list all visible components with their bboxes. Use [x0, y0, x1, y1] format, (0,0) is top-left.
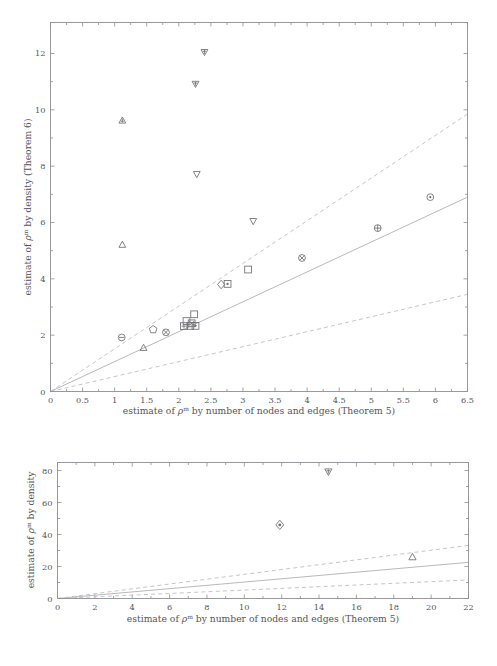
bottom-y-axis-label: estimate of ρm by density: [25, 471, 36, 588]
bottom-axis-ticks: [58, 463, 469, 599]
y-tick-label: 6: [40, 217, 45, 227]
top-x-axis-label: estimate of ρm by number of nodes and ed…: [123, 405, 395, 416]
x-tick-label: 1.5: [140, 395, 153, 405]
figure-svg: 00.511.522.533.544.555.566.5 024681012 e…: [0, 0, 497, 666]
y-tick-label: 10: [35, 105, 45, 115]
line-identity-reference: [51, 197, 468, 391]
bottom-y-tick-labels: 020406080: [42, 466, 52, 604]
x-tick-label: 12: [276, 602, 286, 612]
marker-square: [245, 266, 252, 273]
x-tick-label: 2: [92, 602, 97, 612]
bottom-reference-lines: [58, 545, 469, 598]
x-tick-label: 20: [426, 602, 436, 612]
line-upper-bound: [51, 114, 468, 391]
x-tick-label: 3.5: [269, 395, 282, 405]
y-tick-label: 20: [42, 562, 52, 572]
marker-triangle-down: [193, 171, 200, 177]
marker-circle-x: [163, 329, 170, 336]
x-tick-label: 14: [314, 602, 324, 612]
marker-triangle-up: [119, 241, 126, 247]
x-tick-label: 6: [167, 602, 172, 612]
x-tick-label: 4: [305, 395, 310, 405]
x-tick-label: 4: [130, 602, 135, 612]
y-tick-label: 2: [40, 330, 45, 340]
line-lower-bound: [58, 580, 469, 599]
x-tick-label: 22: [463, 602, 473, 612]
top-axis-ticks: [51, 23, 468, 392]
marker-triangle-up: [409, 553, 416, 560]
marker-diamond-dot: [276, 520, 284, 529]
bottom-x-axis-label: estimate of ρm by number of nodes and ed…: [127, 613, 399, 624]
marker-triangle-down: [250, 219, 257, 225]
top-y-tick-labels: 024681012: [35, 48, 45, 396]
marker-circle-minus: [118, 334, 125, 341]
x-tick-label: 6.5: [461, 395, 474, 405]
bottom-panel: 0246810121416182022 020406080 estimate o…: [25, 463, 474, 625]
marker-pentagon: [149, 326, 157, 333]
marker-diamond: [218, 280, 225, 289]
x-tick-label: 3: [240, 395, 245, 405]
figure-container: 00.511.522.533.544.555.566.5 024681012 e…: [0, 0, 497, 666]
marker-square: [191, 311, 198, 318]
marker-circle-x: [299, 255, 306, 262]
x-tick-label: 8: [204, 602, 209, 612]
x-tick-label: 5.5: [397, 395, 410, 405]
line-upper-bound: [58, 545, 469, 598]
marker-square: [183, 318, 190, 325]
y-tick-label: 40: [42, 530, 52, 540]
y-tick-label: 4: [40, 274, 45, 284]
x-tick-label: 2.5: [204, 395, 217, 405]
marker-square-dot: [224, 280, 231, 287]
line-identity-reference: [58, 562, 469, 598]
y-tick-label: 12: [35, 48, 45, 58]
x-tick-label: 16: [351, 602, 361, 612]
x-tick-label: 5: [369, 395, 374, 405]
top-scatter-points: [118, 50, 433, 351]
marker-triangle-down-filled: [201, 50, 208, 56]
x-tick-label: 18: [389, 602, 399, 612]
x-tick-label: 0.5: [76, 395, 89, 405]
marker-circle-plus: [374, 225, 381, 232]
y-tick-label: 80: [42, 466, 52, 476]
marker-triangle-up-filled: [119, 117, 126, 123]
x-tick-label: 6: [433, 395, 438, 405]
marker-triangle-down-filled: [192, 81, 199, 87]
top-panel: 00.511.522.533.544.555.566.5 024681012 e…: [22, 23, 474, 417]
line-lower-bound: [51, 294, 468, 391]
x-tick-label: 2: [176, 395, 181, 405]
top-reference-lines: [51, 114, 468, 391]
y-tick-label: 60: [42, 498, 52, 508]
x-tick-label: 0: [48, 395, 53, 405]
bottom-plot-frame: [58, 463, 469, 599]
bottom-x-tick-labels: 0246810121416182022: [55, 602, 474, 612]
top-plot-frame: [51, 23, 468, 392]
x-tick-label: 0: [55, 602, 60, 612]
y-tick-label: 8: [40, 161, 45, 171]
x-tick-label: 10: [239, 602, 249, 612]
top-x-tick-labels: 00.511.522.533.544.555.566.5: [48, 395, 474, 405]
x-tick-label: 4.5: [333, 395, 346, 405]
top-y-axis-label: estimate of ρm by density (Theorem 6): [22, 118, 33, 295]
marker-triangle-down-filled: [325, 469, 332, 476]
bottom-scatter-points: [276, 469, 416, 560]
y-tick-label: 0: [40, 387, 45, 397]
y-tick-label: 0: [47, 594, 52, 604]
x-tick-label: 1: [112, 395, 117, 405]
marker-circle-dot: [427, 194, 434, 201]
